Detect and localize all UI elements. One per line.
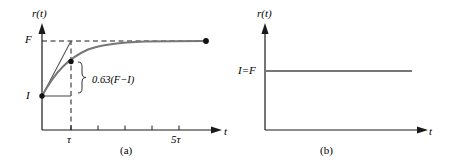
marker-dot-I [39,93,44,98]
figure-container: r(t) F I τ 5τ t 0.63(F−I) (a) r(t) I=F t… [0,0,469,168]
panel-a-annotation: 0.63(F−I) [92,75,134,86]
panel-b-y-axis-label: r(t) [257,8,272,19]
x-axis [265,126,428,133]
panel-b-caption: (b) [320,145,333,156]
panel-b-y-tick-IF: I=F [238,65,256,76]
marker-dot-tau [68,59,73,64]
panel-a: r(t) F I τ 5τ t 0.63(F−I) (a) [0,0,235,168]
x-axis-ticks [71,126,179,131]
panel-b-plot [235,0,469,168]
panel-a-x-tick-5tau: 5τ [171,134,180,145]
panel-a-y-tick-I: I [26,90,30,101]
brace-0-63 [78,62,86,93]
panel-a-y-tick-F: F [25,34,32,45]
panel-b-x-axis-label: t [429,126,432,137]
y-axis [261,23,268,130]
panel-b: r(t) I=F t (b) [235,0,469,168]
panel-a-x-tick-tau: τ [67,134,71,145]
panel-a-caption: (a) [120,145,132,156]
y-axis [38,23,45,130]
panel-a-y-axis-label: r(t) [32,8,47,19]
panel-a-x-axis-label: t [224,126,227,137]
marker-dot-final [203,38,209,44]
